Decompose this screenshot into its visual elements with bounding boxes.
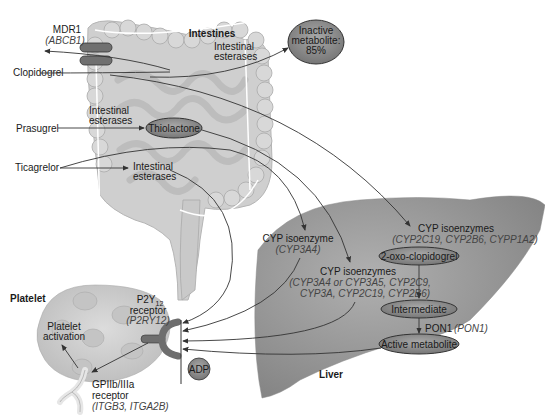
intestines-illustration: [87, 20, 273, 300]
gpiib-gene: (ITGB3, ITGA2B): [92, 401, 169, 412]
ticagrelor-label: Ticagrelor: [15, 162, 60, 173]
pharmacology-diagram: Intestines MDR1 (ABCB1) Clopidogrel Pras…: [0, 0, 545, 420]
oxo-clopidogrel-label: 2-oxo-clopidogrel: [381, 251, 458, 262]
pon1-gene: (PON1): [454, 323, 488, 334]
gpiib-line2: receptor: [92, 390, 129, 401]
cyp3a4-title: CYP isoenzyme: [263, 233, 334, 244]
thiolactone-label: Thiolactone: [148, 123, 200, 134]
cyp3a4-genes: (CYP3A4): [275, 244, 320, 255]
prasugrel-label: Prasugrel: [16, 123, 59, 134]
cyp-step2-title: CYP isoenzymes: [320, 266, 396, 277]
platelet-label: Platelet: [10, 293, 46, 304]
intestinal-esterases-label-1b: esterases: [89, 115, 132, 126]
cyp-step1-genes: (CYP2C19, CYP2B6, CYPP1A2): [392, 234, 538, 245]
adp-label: ADP: [189, 364, 210, 375]
cyp-step2-genes-1: (CYP3A4 or CYP3A5, CYP2C9,: [289, 277, 431, 288]
mdr1-label: MDR1: [53, 24, 82, 35]
intermediate-label: Intermediate: [391, 304, 447, 315]
liver-label: Liver: [319, 369, 343, 380]
clopidogrel-label: Clopidogrel: [13, 67, 64, 78]
cyp-step1-title: CYP isoenzymes: [418, 223, 494, 234]
gpiib-line1: GPIIb/IIIa: [92, 379, 135, 390]
platelet-activation-line2: activation: [43, 331, 85, 342]
active-metabolite-label: Active metabolite: [381, 339, 458, 350]
intestinal-esterases-label-2b: esterases: [214, 51, 257, 62]
p2y12-gene: (P2RY12): [126, 315, 170, 326]
inactive-metabolite-line3: 85%: [306, 45, 326, 56]
pon1-label: PON1: [425, 323, 453, 334]
intestines-label: Intestines: [189, 28, 236, 39]
cyp-step2-genes-2: CYP3A, CYP2C19, CYP2B6): [300, 288, 430, 299]
intestinal-esterases-label-3b: esterases: [133, 171, 176, 182]
mdr1-gene-label: (ABCB1): [45, 35, 84, 46]
